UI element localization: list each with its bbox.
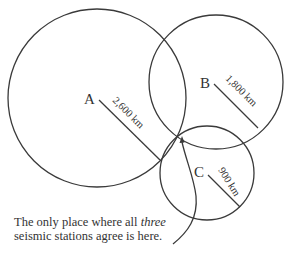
distance-label-a: 2,600 km xyxy=(111,95,147,131)
station-label-c: C xyxy=(194,164,204,180)
station-label-a: A xyxy=(84,91,95,107)
distance-label-c: 900 km xyxy=(216,165,242,198)
circle-station-c xyxy=(160,126,254,220)
distance-label-b: 1,800 km xyxy=(224,73,260,109)
circle-station-a xyxy=(8,9,186,187)
caption-line1-text: The only place where all xyxy=(14,215,141,229)
caption-line2-text: seismic stations agree is here. xyxy=(14,229,162,243)
station-label-b: B xyxy=(200,75,210,91)
caption: The only place where all three seismic s… xyxy=(14,215,214,243)
caption-emphasis: three xyxy=(141,215,166,229)
arrowhead-icon xyxy=(180,136,185,143)
circle-station-b xyxy=(149,15,283,149)
